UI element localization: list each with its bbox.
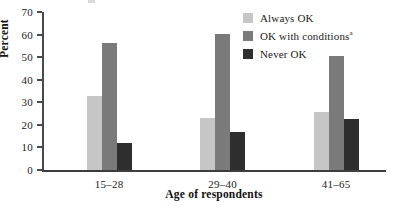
bar[interactable] <box>344 119 359 170</box>
y-tick: 30 <box>2 96 42 108</box>
chart-page: Percent 010203040506070 15–2829–4041–65 … <box>0 0 398 208</box>
y-tick-mark <box>37 11 42 13</box>
y-tick-label: 0 <box>5 164 33 176</box>
bar[interactable] <box>215 34 230 170</box>
y-tick: 10 <box>2 141 42 153</box>
y-tick-label: 30 <box>5 96 33 108</box>
y-tick-mark <box>37 56 42 58</box>
y-tick: 40 <box>2 74 42 86</box>
chart-legend: Always OKOK with conditionsaNever OK <box>243 10 393 64</box>
y-tick-mark <box>37 169 42 171</box>
y-tick-label: 20 <box>5 119 33 131</box>
y-tick: 20 <box>2 119 42 131</box>
bar[interactable] <box>200 118 215 170</box>
bar[interactable] <box>314 112 329 170</box>
legend-swatch <box>243 49 253 59</box>
legend-label-superscript: a <box>349 29 352 37</box>
legend-label: Never OK <box>260 48 307 60</box>
bar[interactable] <box>102 43 117 170</box>
y-tick-label: 60 <box>5 29 33 41</box>
legend-item[interactable]: OK with conditionsa <box>243 28 393 43</box>
y-axis-line <box>42 12 44 170</box>
x-axis-line <box>42 170 386 172</box>
bar[interactable] <box>329 56 344 170</box>
y-tick: 0 <box>2 164 42 176</box>
legend-swatch <box>243 13 253 23</box>
bar[interactable] <box>87 96 102 170</box>
y-tick-mark <box>37 101 42 103</box>
y-tick: 50 <box>2 51 42 63</box>
y-tick-mark <box>37 79 42 81</box>
legend-item[interactable]: Never OK <box>243 46 393 61</box>
y-tick-label: 10 <box>5 141 33 153</box>
bar[interactable] <box>230 132 245 170</box>
x-axis-title: Age of respondents <box>42 188 386 200</box>
scan-artifact <box>88 0 95 3</box>
y-tick-label: 40 <box>5 74 33 86</box>
y-tick-mark <box>37 34 42 36</box>
y-tick: 60 <box>2 29 42 41</box>
bar[interactable] <box>117 143 132 170</box>
y-tick: 70 <box>2 6 42 18</box>
legend-item[interactable]: Always OK <box>243 10 393 25</box>
bar-group-bars <box>79 12 139 170</box>
y-tick-mark <box>37 146 42 148</box>
y-tick-mark <box>37 124 42 126</box>
y-tick-label: 50 <box>5 51 33 63</box>
legend-label: Always OK <box>260 12 314 24</box>
legend-swatch <box>243 31 253 41</box>
bar-group: 15–28 <box>79 12 139 170</box>
y-tick-label: 70 <box>5 6 33 18</box>
legend-label: OK with conditionsa <box>260 29 353 42</box>
